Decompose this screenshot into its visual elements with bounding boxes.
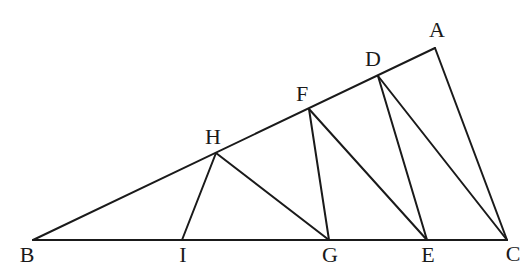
segment-DE [378,76,427,240]
segment-AC [435,48,507,240]
point-label-H: H [205,124,221,149]
segment-HG [216,153,329,240]
point-label-C: C [506,241,521,266]
segment-DC [378,76,507,240]
geometry-diagram: ABCDEFGHI [0,0,532,279]
point-label-D: D [365,46,381,71]
point-label-F: F [296,81,308,106]
point-label-A: A [429,17,445,42]
point-label-I: I [179,242,186,267]
diagram-point-labels: ABCDEFGHI [20,17,521,267]
segment-BA [33,48,435,240]
diagram-segments [33,48,507,240]
point-label-E: E [421,242,434,267]
point-label-G: G [322,242,338,267]
point-label-B: B [20,242,35,267]
